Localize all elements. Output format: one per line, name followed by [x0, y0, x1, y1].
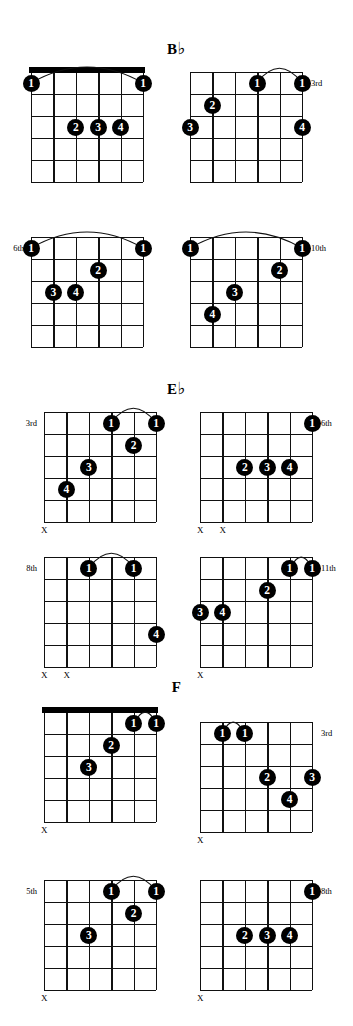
mute-marker-s6: X [197, 671, 204, 680]
fret-line-0 [190, 237, 302, 238]
chord-diagram-eflat-11th[interactable]: 1123411thX [200, 557, 312, 667]
finger-dot-4-s2: 4 [281, 459, 298, 476]
fret-line-0 [200, 722, 312, 723]
string-line-3 [111, 712, 112, 822]
fret-line-3 [200, 623, 312, 624]
chord-title-f: F [0, 680, 353, 695]
fret-line-2 [190, 116, 302, 117]
fret-line-4 [200, 810, 312, 811]
flat-sign-icon: ♭ [177, 379, 186, 398]
finger-dot-1-s1: 1 [148, 715, 165, 732]
finger-dot-1-s1: 1 [148, 415, 165, 432]
string-line-5 [53, 72, 54, 182]
fretboard-grid [44, 412, 156, 522]
chord-diagram-f-8th[interactable]: 12348thX [200, 880, 312, 990]
fret-line-1 [200, 744, 312, 745]
mute-marker-s5: X [219, 526, 226, 535]
fret-line-3 [44, 478, 156, 479]
finger-dot-1-s1: 1 [304, 883, 321, 900]
fret-line-0 [200, 412, 312, 413]
chord-title-e-flat: E♭ [0, 380, 353, 397]
chord-chart-page: B♭11234112343rd112346th1123410thE♭112343… [0, 0, 353, 1026]
fret-line-5 [44, 822, 156, 823]
fret-line-4 [44, 645, 156, 646]
finger-dot-2-s2: 2 [125, 905, 142, 922]
finger-dot-2-s3: 2 [259, 769, 276, 786]
finger-dot-1-s1: 1 [304, 415, 321, 432]
finger-dot-2-s2: 2 [125, 437, 142, 454]
string-line-6 [44, 412, 45, 522]
chord-diagram-f-3rd[interactable]: 112343rdX [200, 722, 312, 832]
chord-diagram-eflat-6th[interactable]: 12346thXX [200, 412, 312, 522]
fret-position-label: 3rd [311, 79, 322, 88]
fret-line-5 [44, 990, 156, 991]
fret-line-5 [44, 522, 156, 523]
fret-line-3 [190, 303, 302, 304]
finger-dot-1-s1: 1 [135, 75, 152, 92]
mute-marker-s6: X [197, 526, 204, 535]
nut-bar [29, 67, 145, 73]
finger-dot-1-s4: 1 [236, 725, 253, 742]
fret-line-5 [31, 347, 143, 348]
chord-title-letter: B [167, 41, 178, 57]
fret-line-4 [190, 325, 302, 326]
fret-line-0 [31, 237, 143, 238]
fret-position-label: 6th [321, 419, 332, 428]
fret-line-1 [31, 94, 143, 95]
fret-line-2 [200, 766, 312, 767]
chord-diagram-f-5th[interactable]: 11235thX [44, 880, 156, 990]
fret-line-1 [44, 434, 156, 435]
fret-line-5 [200, 832, 312, 833]
chord-diagram-bflat-open-barre[interactable]: 11234 [31, 72, 143, 182]
finger-dot-3-s3: 3 [259, 927, 276, 944]
fret-line-2 [44, 924, 156, 925]
finger-dot-4-s2: 4 [112, 119, 129, 136]
fret-line-1 [200, 579, 312, 580]
string-line-3 [267, 557, 268, 667]
string-line-6 [44, 880, 45, 990]
string-line-5 [66, 880, 67, 990]
chord-diagram-bflat-10th[interactable]: 1123410th [190, 237, 302, 347]
fret-line-1 [190, 94, 302, 95]
fret-line-1 [44, 902, 156, 903]
string-line-3 [111, 557, 112, 667]
fret-position-label: 3rd [26, 419, 37, 428]
fret-line-2 [44, 756, 156, 757]
fretboard-grid [190, 72, 302, 182]
fret-line-3 [31, 303, 143, 304]
fret-line-2 [44, 456, 156, 457]
finger-dot-1-s1: 1 [304, 560, 321, 577]
chord-diagram-bflat-6th[interactable]: 112346th [31, 237, 143, 347]
finger-dot-3-s4: 3 [226, 284, 243, 301]
fret-position-label: 5th [26, 887, 37, 896]
finger-dot-1-s3: 1 [103, 883, 120, 900]
string-line-5 [66, 712, 67, 822]
fret-line-1 [200, 902, 312, 903]
finger-dot-4-s1: 4 [294, 119, 311, 136]
fret-line-5 [200, 522, 312, 523]
string-line-5 [212, 237, 213, 347]
chord-diagram-bflat-3rd[interactable]: 112343rd [190, 72, 302, 182]
finger-dot-4-s5: 4 [204, 306, 221, 323]
chord-diagram-eflat-3rd[interactable]: 112343rdX [44, 412, 156, 522]
fret-line-0 [44, 412, 156, 413]
string-line-2 [280, 237, 281, 347]
string-line-3 [257, 237, 258, 347]
chord-title-letter: E [167, 381, 178, 397]
fret-line-1 [190, 259, 302, 260]
finger-dot-4-s1: 4 [148, 626, 165, 643]
fret-line-4 [200, 500, 312, 501]
string-line-2 [290, 722, 291, 832]
fret-line-1 [44, 579, 156, 580]
string-line-2 [280, 72, 281, 182]
chord-diagram-f-open-barre[interactable]: 1123X [44, 712, 156, 822]
fret-line-0 [200, 880, 312, 881]
finger-dot-4-s5: 4 [58, 481, 75, 498]
fret-line-0 [200, 557, 312, 558]
finger-dot-4-s4: 4 [67, 284, 84, 301]
fret-line-3 [200, 946, 312, 947]
fret-line-4 [44, 968, 156, 969]
chord-diagram-eflat-8th[interactable]: 1148thXX [44, 557, 156, 667]
flat-sign-icon: ♭ [177, 39, 186, 58]
fret-position-label: 8th [321, 887, 332, 896]
